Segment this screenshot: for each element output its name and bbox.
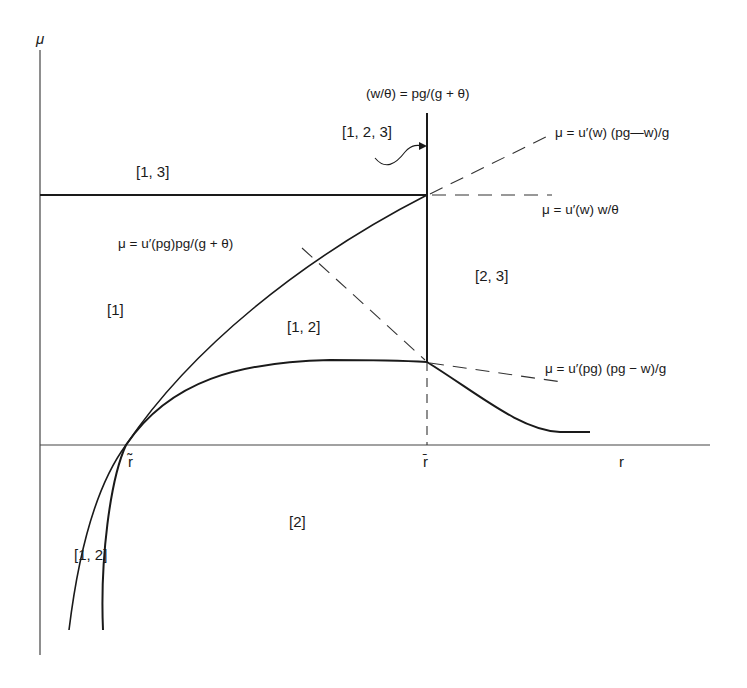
pointer-arrow	[375, 145, 424, 164]
lower-dashed-line	[430, 363, 562, 382]
region-2: [2]	[289, 513, 306, 530]
equation-upper-dashed: μ = u′(w) (pg—w)/g	[555, 125, 669, 140]
region-1-2-3: [1, 2, 3]	[342, 123, 392, 140]
region-2-3: [2, 3]	[475, 267, 508, 284]
x-axis-label: r	[619, 453, 624, 470]
y-axis-label: μ	[35, 30, 44, 47]
lower-curve	[102, 360, 427, 630]
equation-horizontal-dashed: μ = u′(w) w/θ	[542, 202, 619, 217]
diagonal-dashed-line	[302, 248, 425, 360]
r-bar-label: r̄	[422, 453, 428, 470]
arrow-head-icon	[419, 142, 427, 150]
region-1-3: [1, 3]	[136, 163, 169, 180]
rising-curve	[69, 195, 427, 630]
diagram-canvas: μ r r̃ r̄ [1, 3] [1, 2, 3] [1] [1, 2] [2…	[0, 0, 747, 688]
equation-lower-dashed: μ = u′(pg) (pg − w)/g	[545, 361, 666, 376]
region-1-2-upper: [1, 2]	[287, 318, 320, 335]
region-1-2-lower: [1, 2]	[74, 546, 107, 563]
upper-dashed-line	[430, 135, 550, 194]
equation-rising-curve: μ = u′(pg)pg/(g + θ)	[118, 236, 233, 251]
r-tilde-label: r̃	[126, 453, 133, 470]
equation-vertical-top: (w/θ) = pg/(g + θ)	[366, 86, 470, 101]
region-1: [1]	[107, 301, 124, 318]
